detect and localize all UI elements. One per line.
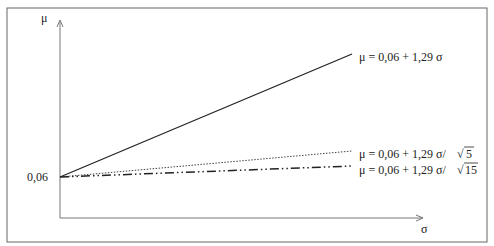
series-label-1: μ = 0,06 + 1,29 σ <box>359 50 443 64</box>
series-line-3 <box>60 166 352 177</box>
svg-text:μ = 0,06 + 1,29 σ/: μ = 0,06 + 1,29 σ/ <box>359 147 446 161</box>
series-line-1 <box>60 54 352 177</box>
y-axis-label: μ <box>41 11 47 25</box>
series-label-3: μ = 0,06 + 1,29 σ/ √ 15 <box>359 163 478 177</box>
svg-text:μ = 0,06 + 1,29 σ/: μ = 0,06 + 1,29 σ/ <box>359 163 446 177</box>
sqrt-sign-icon: √ <box>457 147 464 161</box>
series-line-2 <box>60 151 352 177</box>
series-label-2: μ = 0,06 + 1,29 σ/ √ 5 <box>359 147 474 161</box>
sqrt-sign-icon: √ <box>457 163 464 177</box>
svg-text:15: 15 <box>465 163 477 177</box>
x-axis-label: σ <box>421 222 428 236</box>
intercept-label: 0,06 <box>27 170 48 184</box>
svg-text:5: 5 <box>466 147 472 161</box>
frame-border <box>7 8 487 242</box>
chart-canvas: μ σ 0,06 μ = 0,06 + 1,29 σ μ = 0,06 + 1,… <box>0 0 494 246</box>
